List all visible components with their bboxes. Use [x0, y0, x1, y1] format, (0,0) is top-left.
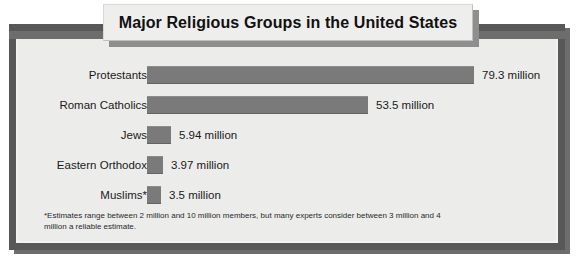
chart-panel: Protestants79.3 millionRoman Catholics53… [9, 24, 565, 250]
bar-category-label: Protestants [18, 69, 147, 81]
title-accent-bar-right [472, 31, 565, 39]
bar-3 [147, 126, 171, 144]
bar-row: Muslims*3.5 million [18, 185, 574, 205]
bar-value-label: 3.97 million [171, 159, 229, 171]
bar-category-label: Eastern Orthodox [18, 159, 147, 171]
bar-2 [147, 96, 368, 114]
bar-value-label: 5.94 million [179, 129, 237, 141]
bar-row: Protestants79.3 million [18, 65, 574, 85]
chart-panel-inner: Protestants79.3 millionRoman Catholics53… [16, 31, 558, 243]
bar-row: Jews5.94 million [18, 125, 574, 145]
bar-category-label: Muslims* [18, 189, 147, 201]
bar-category-label: Jews [18, 129, 147, 141]
bar-row: Roman Catholics53.5 million [18, 95, 574, 115]
bar-4 [147, 156, 163, 174]
bar-1 [147, 66, 474, 84]
page-title: Major Religious Groups in the United Sta… [119, 14, 458, 32]
title-banner: Major Religious Groups in the United Sta… [103, 4, 473, 41]
chart-footnote: *Estimates range between 2 million and 1… [44, 211, 464, 232]
bar-value-label: 79.3 million [482, 69, 540, 81]
title-accent-bar-left [9, 31, 105, 39]
bar-value-label: 53.5 million [376, 99, 434, 111]
bar-row: Eastern Orthodox3.97 million [18, 155, 574, 175]
bar-category-label: Roman Catholics [18, 99, 147, 111]
chart-screenshot: Protestants79.3 millionRoman Catholics53… [0, 0, 579, 260]
bar-5 [147, 186, 161, 204]
bar-value-label: 3.5 million [169, 189, 221, 201]
